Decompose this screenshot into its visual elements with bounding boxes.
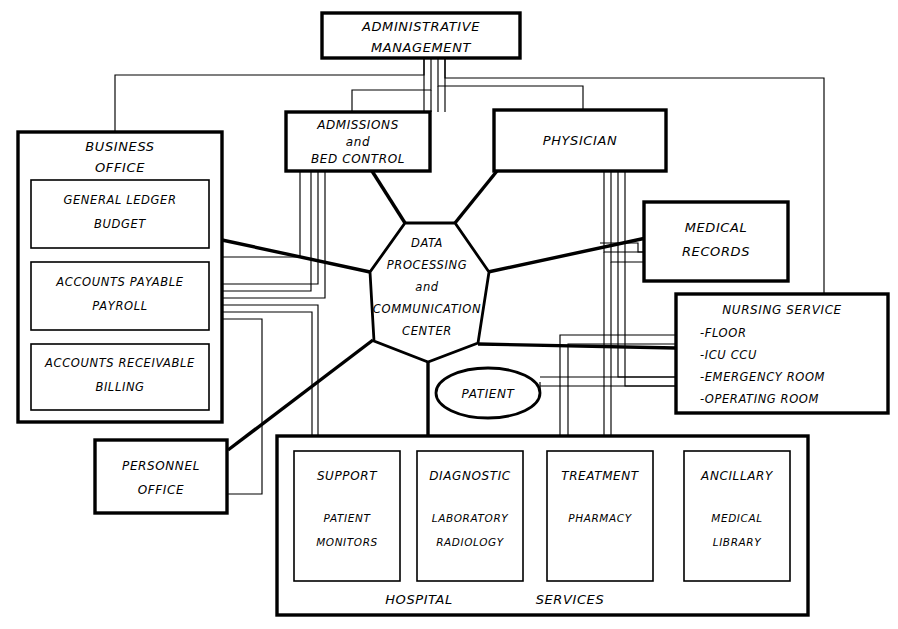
medical-records-box[interactable] (644, 202, 788, 281)
treatment-line1: PHARMACY (568, 512, 632, 524)
admissions-line1: ADMISSIONS (316, 118, 399, 132)
business-office-line2: OFFICE (95, 160, 145, 175)
hospital-services-footer-left: HOSPITAL (385, 592, 453, 607)
physician-node[interactable]: PHYSICIAN (494, 110, 666, 171)
data-processing-center-node[interactable]: DATA PROCESSING and COMMUNICATION CENTER (370, 223, 489, 362)
treatment-heading: TREATMENT (561, 469, 640, 483)
hospital-services-footer-right: SERVICES (536, 592, 605, 607)
hospital-services-box[interactable] (277, 436, 808, 615)
personnel-office-box[interactable] (95, 440, 227, 513)
patient-label: PATIENT (462, 387, 516, 401)
diagnostic-line2: RADIOLOGY (436, 536, 505, 548)
nursing-service-item-1: -ICU CCU (700, 348, 757, 362)
admissions-line3: BED CONTROL (311, 152, 405, 166)
diagram-canvas: ADMINISTRATIVE MANAGEMENT BUSINESS OFFIC… (0, 0, 898, 629)
support-line1: PATIENT (324, 512, 372, 524)
ancillary-heading: ANCILLARY (700, 469, 774, 483)
business-office-line1: BUSINESS (85, 139, 154, 154)
center-line1: DATA (411, 236, 443, 250)
center-line5: CENTER (402, 324, 452, 338)
administrative-management-line2: MANAGEMENT (371, 40, 472, 55)
diagnostic-line1: LABORATORY (432, 512, 510, 524)
center-line4: COMMUNICATION (373, 302, 481, 316)
medical-records-line1: MEDICAL (685, 220, 748, 235)
admissions-line2: and (346, 135, 370, 149)
center-line2: PROCESSING (387, 258, 467, 272)
accounts-receivable-billing-line2: BILLING (95, 380, 144, 394)
general-ledger-budget-line1: GENERAL LEDGER (63, 193, 176, 207)
accounts-payable-payroll-line1: ACCOUNTS PAYABLE (55, 275, 184, 289)
hospital-services-node[interactable]: SUPPORT PATIENT MONITORS DIAGNOSTIC LABO… (277, 436, 808, 615)
ancillary-line2: LIBRARY (713, 536, 763, 548)
nodes-layer: ADMINISTRATIVE MANAGEMENT BUSINESS OFFIC… (0, 0, 898, 629)
nursing-service-node[interactable]: NURSING SERVICE -FLOOR -ICU CCU -EMERGEN… (676, 294, 888, 413)
support-heading: SUPPORT (317, 469, 378, 483)
administrative-management-line1: ADMINISTRATIVE (361, 19, 480, 34)
medical-records-node[interactable]: MEDICAL RECORDS (644, 202, 788, 281)
physician-label: PHYSICIAN (543, 133, 618, 148)
personnel-office-line1: PERSONNEL (122, 459, 200, 473)
patient-node[interactable]: PATIENT (436, 368, 540, 418)
support-line2: MONITORS (316, 536, 378, 548)
general-ledger-budget-line2: BUDGET (94, 217, 146, 231)
center-line3: and (415, 280, 439, 294)
personnel-office-node[interactable]: PERSONNEL OFFICE (95, 440, 227, 513)
nursing-service-item-3: -OPERATING ROOM (700, 392, 819, 406)
medical-records-line2: RECORDS (682, 244, 750, 259)
ancillary-line1: MEDICAL (711, 512, 762, 524)
nursing-service-title: NURSING SERVICE (722, 303, 842, 317)
admissions-bed-control-node[interactable]: ADMISSIONS and BED CONTROL (286, 112, 430, 171)
nursing-service-item-2: -EMERGENCY ROOM (700, 370, 825, 384)
administrative-management-node[interactable]: ADMINISTRATIVE MANAGEMENT (322, 13, 520, 58)
diagnostic-heading: DIAGNOSTIC (429, 469, 511, 483)
accounts-payable-payroll-line2: PAYROLL (92, 299, 147, 313)
personnel-office-line2: OFFICE (138, 483, 184, 497)
nursing-service-item-0: -FLOOR (700, 326, 747, 340)
business-office-node[interactable]: BUSINESS OFFICE GENERAL LEDGER BUDGET AC… (18, 132, 222, 422)
accounts-receivable-billing-line1: ACCOUNTS RECEIVABLE (44, 356, 195, 370)
